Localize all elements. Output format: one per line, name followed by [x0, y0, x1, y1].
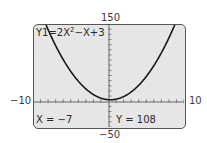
trace-y-readout: Y = 108	[116, 114, 156, 125]
trace-x-readout: X = −7	[36, 114, 72, 125]
equation-label: Y1=2X2−X+3	[36, 26, 105, 38]
graph-plot	[0, 0, 207, 143]
